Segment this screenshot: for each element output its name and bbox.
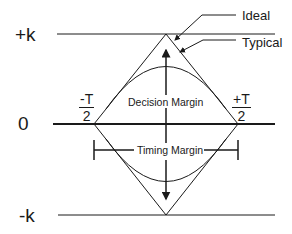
plus-half-period-numerator: +T	[232, 92, 251, 108]
decision-margin-label: Decision Margin	[127, 97, 204, 108]
plus-half-period-label: +T 2	[232, 92, 251, 123]
ideal-callout-leader	[175, 15, 236, 40]
minus-half-period-label: -T 2	[79, 92, 94, 123]
ideal-label: Ideal	[242, 9, 270, 22]
plus-half-period-denominator: 2	[232, 108, 251, 123]
timing-margin-label: Timing Margin	[136, 145, 204, 156]
plus-k-label: +k	[15, 25, 36, 44]
minus-half-period-denominator: 2	[79, 108, 94, 123]
typical-label: Typical	[242, 36, 282, 49]
typical-callout-leader	[180, 40, 236, 52]
minus-half-period-numerator: -T	[79, 92, 94, 108]
minus-k-label: -k	[19, 206, 35, 225]
zero-label: 0	[18, 114, 29, 133]
